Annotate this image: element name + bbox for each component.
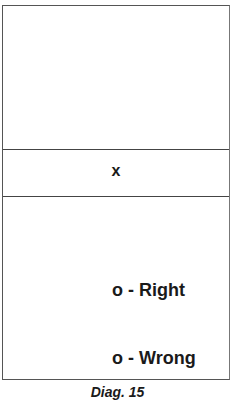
upper-divider bbox=[3, 149, 229, 150]
right-option-label: o - Right bbox=[112, 280, 185, 301]
wrong-option-label: o - Wrong bbox=[112, 348, 196, 369]
x-mark: x bbox=[3, 162, 229, 180]
lower-divider bbox=[3, 196, 229, 197]
diagram-frame: x bbox=[2, 5, 230, 380]
diagram-caption: Diag. 15 bbox=[0, 384, 235, 400]
